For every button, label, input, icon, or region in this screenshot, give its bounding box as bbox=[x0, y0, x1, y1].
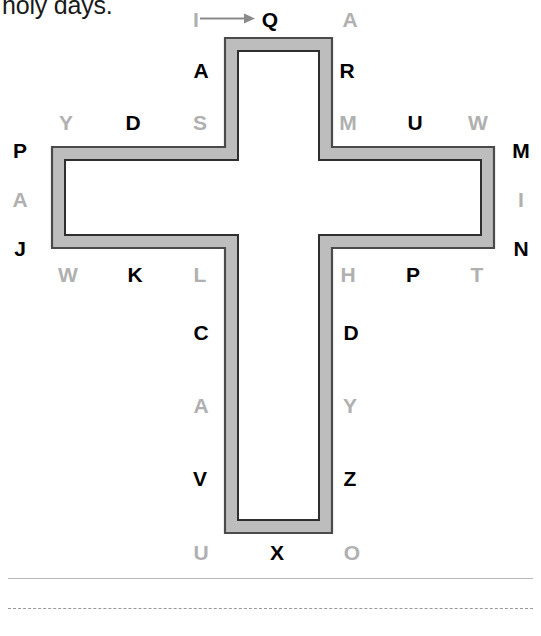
letter-r-4[interactable]: R bbox=[339, 60, 354, 81]
answer-line-dashed[interactable] bbox=[8, 608, 533, 609]
letter-d-24[interactable]: D bbox=[343, 322, 358, 343]
letter-y-26[interactable]: Y bbox=[343, 395, 357, 416]
letter-w-17[interactable]: W bbox=[58, 264, 78, 285]
letter-x-30[interactable]: X bbox=[270, 542, 284, 563]
letter-a-3[interactable]: A bbox=[193, 60, 208, 81]
letter-u-29[interactable]: U bbox=[193, 542, 208, 563]
worksheet-page: holy days. IQAARYDSMUWPMAIJNWKLHPTCDAYVZ… bbox=[0, 0, 541, 636]
letter-i-0[interactable]: I bbox=[193, 9, 199, 30]
letter-l-19[interactable]: L bbox=[194, 264, 207, 285]
letter-n-16[interactable]: N bbox=[513, 238, 528, 259]
letter-a-2[interactable]: A bbox=[342, 9, 357, 30]
cross-outline-svg bbox=[0, 0, 541, 560]
letter-d-6[interactable]: D bbox=[125, 112, 140, 133]
answer-line-solid[interactable] bbox=[8, 578, 533, 579]
letter-p-11[interactable]: P bbox=[13, 140, 27, 161]
letter-m-8[interactable]: M bbox=[339, 112, 357, 133]
letter-o-31[interactable]: O bbox=[344, 542, 360, 563]
letter-j-15[interactable]: J bbox=[14, 238, 26, 259]
letter-s-7[interactable]: S bbox=[193, 112, 207, 133]
letter-i-14[interactable]: I bbox=[518, 189, 524, 210]
letter-a-25[interactable]: A bbox=[193, 395, 208, 416]
letter-u-9[interactable]: U bbox=[407, 112, 422, 133]
letter-a-13[interactable]: A bbox=[12, 189, 27, 210]
letter-p-21[interactable]: P bbox=[406, 264, 420, 285]
letter-k-18[interactable]: K bbox=[127, 264, 142, 285]
letter-w-10[interactable]: W bbox=[468, 112, 488, 133]
letter-v-27[interactable]: V bbox=[193, 468, 207, 489]
letter-y-5[interactable]: Y bbox=[59, 112, 73, 133]
letter-q-1[interactable]: Q bbox=[262, 9, 278, 30]
letter-m-12[interactable]: M bbox=[512, 140, 530, 161]
letter-c-23[interactable]: C bbox=[193, 322, 208, 343]
letter-z-28[interactable]: Z bbox=[344, 468, 357, 489]
letter-h-20[interactable]: H bbox=[340, 264, 355, 285]
letter-t-22[interactable]: T bbox=[471, 264, 484, 285]
cross-figure bbox=[0, 0, 541, 560]
